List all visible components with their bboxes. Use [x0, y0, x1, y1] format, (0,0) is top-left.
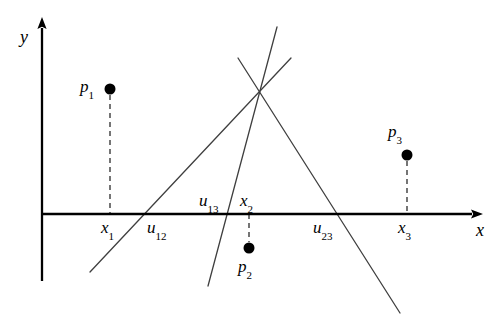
point-dot-p3: [402, 150, 413, 161]
y-axis-label: y: [20, 28, 28, 46]
intersection-label-u13: u13: [199, 192, 219, 209]
point-label-p1: p1: [80, 78, 94, 95]
x-axis-label: x: [476, 221, 484, 239]
dual-line-23: [238, 58, 400, 313]
axis-label-x1: x1: [101, 219, 114, 236]
point-dot-p1: [105, 84, 116, 95]
intersection-label-u23: u23: [313, 219, 333, 236]
point-label-p2: p2: [238, 258, 252, 275]
point-label-p3: p3: [388, 123, 402, 140]
point-dot-p2: [244, 243, 255, 254]
axis-label-x3: x3: [398, 219, 411, 236]
figure-canvas: [0, 0, 503, 335]
intersection-label-u12: u12: [147, 219, 167, 236]
axis-label-x2: x2: [240, 192, 253, 209]
dual-line-13: [90, 58, 291, 272]
dual-line-arrangement-figure: y x p1 p2 p3 x1 x2 x3 u12 u13 u23: [0, 0, 503, 335]
